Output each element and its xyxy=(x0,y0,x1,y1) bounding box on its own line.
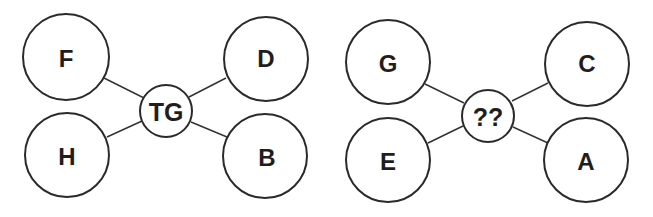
edge-g-hub xyxy=(425,84,464,103)
edge-b-hub xyxy=(191,122,227,137)
diagram-2: G C E A ?? xyxy=(346,20,629,202)
hub-label: ?? xyxy=(473,103,504,131)
node-label: B xyxy=(258,144,275,171)
node-top-right: D xyxy=(224,17,308,101)
edge-f-hub xyxy=(104,78,144,98)
edge-e-hub xyxy=(428,126,463,143)
node-bottom-right: B xyxy=(223,114,307,198)
node-label: F xyxy=(59,45,74,72)
node-label: E xyxy=(380,148,396,175)
hub-node: TG xyxy=(140,85,192,137)
node-top-left: F xyxy=(23,14,109,100)
node-label: G xyxy=(379,50,398,77)
node-label: C xyxy=(578,50,595,77)
node-top-left: G xyxy=(346,20,430,104)
puzzle-canvas: F D H B TG G C xyxy=(0,0,653,217)
edge-c-hub xyxy=(512,83,548,101)
edge-h-hub xyxy=(107,121,142,137)
node-bottom-left: H xyxy=(25,113,109,197)
diagram-1: F D H B TG xyxy=(23,14,308,198)
edge-a-hub xyxy=(513,127,548,143)
node-label: D xyxy=(257,45,274,72)
node-bottom-left: E xyxy=(346,118,430,202)
node-top-right: C xyxy=(545,22,629,106)
hub-node-unknown: ?? xyxy=(462,90,514,142)
node-bottom-right: A xyxy=(544,118,628,202)
edge-d-hub xyxy=(189,78,226,97)
node-label: H xyxy=(58,143,75,170)
hub-label: TG xyxy=(149,98,184,126)
node-label: A xyxy=(577,148,594,175)
